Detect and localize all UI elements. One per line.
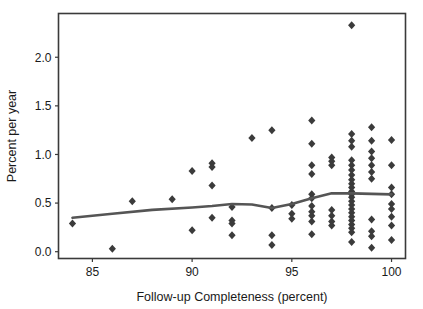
x-tick-label: 90 <box>185 265 199 279</box>
x-tick-label: 100 <box>382 265 402 279</box>
y-tick-label: 0.5 <box>35 196 52 210</box>
x-tick-label: 95 <box>285 265 299 279</box>
chart-canvas: 859095100 0.00.51.01.52.0 Follow-up Comp… <box>0 0 423 309</box>
y-tick-label: 1.5 <box>35 99 52 113</box>
y-axis-title: Percent per year <box>5 90 19 182</box>
scatter-plot-figure: 859095100 0.00.51.01.52.0 Follow-up Comp… <box>0 0 423 309</box>
y-tick-label: 0.0 <box>35 245 52 259</box>
y-tick-label: 2.0 <box>35 51 52 65</box>
x-tick-label: 85 <box>86 265 100 279</box>
x-axis-title: Follow-up Completeness (percent) <box>136 290 327 304</box>
y-tick-label: 1.0 <box>35 148 52 162</box>
